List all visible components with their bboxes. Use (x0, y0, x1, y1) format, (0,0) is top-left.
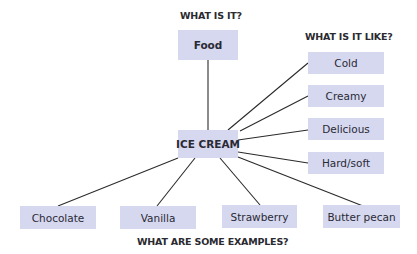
node-food-label: Food (194, 39, 223, 51)
connector-strawberry (220, 158, 260, 205)
node-food: Food (178, 30, 238, 60)
node-label: Strawberry (231, 211, 289, 223)
node-ice-cream-label: ICE CREAM (176, 138, 240, 150)
node-example-strawberry: Strawberry (222, 205, 297, 228)
heading-what-is-it: WHAT IS IT? (180, 10, 242, 21)
node-attribute-hard-soft: Hard/soft (308, 152, 384, 174)
connector-chocolate (58, 158, 178, 206)
node-attribute-creamy: Creamy (308, 85, 384, 107)
node-ice-cream: ICE CREAM (178, 130, 238, 158)
node-label: Vanilla (141, 212, 176, 224)
heading-examples: WHAT ARE SOME EXAMPLES? (137, 236, 288, 247)
node-label: Chocolate (32, 212, 85, 224)
node-label: Delicious (322, 123, 370, 135)
node-example-chocolate: Chocolate (20, 206, 96, 229)
node-label: Hard/soft (322, 157, 370, 169)
node-label: Creamy (326, 90, 367, 102)
node-example-vanilla: Vanilla (120, 206, 196, 229)
node-attribute-cold: Cold (308, 52, 384, 74)
node-label: Butter pecan (327, 211, 395, 223)
connector-delicious (238, 130, 308, 140)
connector-cold (228, 63, 308, 130)
node-example-butter-pecan: Butter pecan (323, 205, 400, 228)
node-label: Cold (334, 57, 357, 69)
node-attribute-delicious: Delicious (308, 118, 384, 140)
connector-vanilla (157, 158, 195, 206)
connector-creamy (240, 96, 308, 131)
heading-what-is-it-like: WHAT IS IT LIKE? (305, 31, 393, 42)
